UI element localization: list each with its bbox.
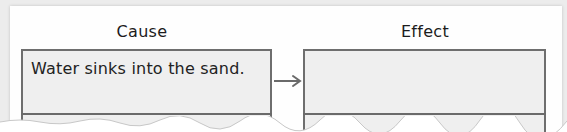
torn-paper-edge <box>0 116 567 132</box>
cause-divider-line <box>21 113 272 115</box>
effect-heading: Effect <box>304 22 546 41</box>
cause-text: Water sinks into the sand. <box>31 59 245 78</box>
arrow-right-icon <box>273 74 303 88</box>
effect-divider-line <box>303 113 546 115</box>
cause-heading: Cause <box>21 22 263 41</box>
